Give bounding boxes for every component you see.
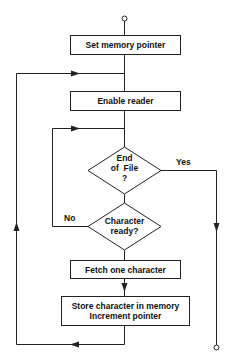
store-character-box: Store character in memory Increment poin… bbox=[61, 296, 190, 326]
arrow-right-icon bbox=[71, 126, 80, 132]
arrow-up-icon bbox=[14, 222, 20, 231]
end-terminal bbox=[214, 345, 219, 350]
char-ready-decision-text: Character ready? bbox=[90, 216, 159, 236]
eof-line-3: ? bbox=[94, 173, 155, 183]
eof-line-1: End bbox=[94, 153, 155, 163]
ready-line-2: ready? bbox=[90, 226, 159, 236]
set-memory-pointer-box: Set memory pointer bbox=[70, 35, 181, 55]
eof-line-2: of File bbox=[94, 163, 155, 173]
set-memory-pointer-label: Set memory pointer bbox=[86, 40, 166, 50]
yes-label: Yes bbox=[176, 157, 191, 167]
no-label: No bbox=[64, 213, 75, 223]
store-line-1: Store character in memory bbox=[72, 301, 180, 311]
fetch-one-character-box: Fetch one character bbox=[70, 260, 181, 279]
arrow-right-icon bbox=[71, 71, 80, 77]
start-terminal bbox=[122, 16, 127, 21]
arrow-down-icon bbox=[122, 283, 128, 292]
arrow-left-icon bbox=[70, 342, 79, 348]
fetch-one-character-label: Fetch one character bbox=[85, 265, 166, 275]
enable-reader-box: Enable reader bbox=[70, 91, 181, 111]
arrow-down-icon bbox=[214, 223, 220, 232]
eof-decision-text: End of File ? bbox=[94, 153, 155, 183]
ready-line-1: Character bbox=[90, 216, 159, 226]
enable-reader-label: Enable reader bbox=[97, 96, 153, 106]
store-line-2: Increment pointer bbox=[90, 311, 162, 321]
